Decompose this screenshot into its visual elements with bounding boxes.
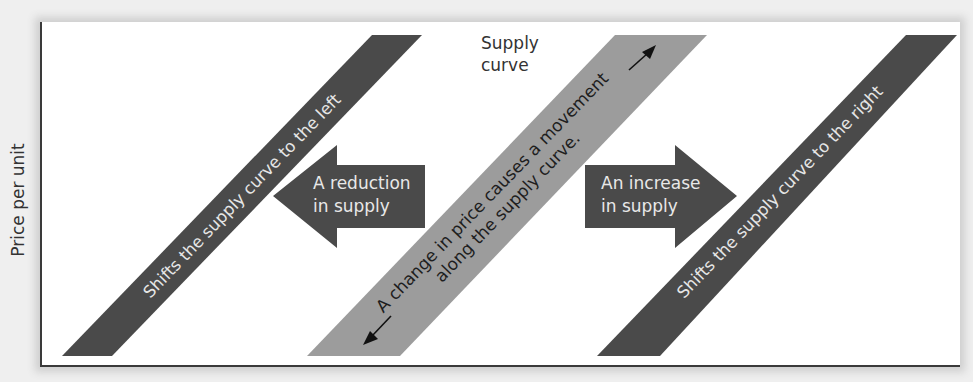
y-axis-label: Price per unit	[8, 143, 28, 256]
increase-arrow-label-line1: An increase	[601, 172, 700, 195]
reduction-arrow-label-line1: A reduction	[313, 172, 411, 195]
supply-curve-label-line2: curve	[481, 54, 539, 76]
reduction-arrow-label: A reduction in supply	[313, 172, 411, 218]
reduction-arrow-label-line2: in supply	[313, 195, 411, 218]
supply-curve-label: Supply curve	[481, 32, 539, 76]
increase-arrow-label: An increase in supply	[601, 172, 700, 218]
supply-curve-label-line1: Supply	[481, 32, 539, 54]
increase-arrow-label-line2: in supply	[601, 195, 700, 218]
